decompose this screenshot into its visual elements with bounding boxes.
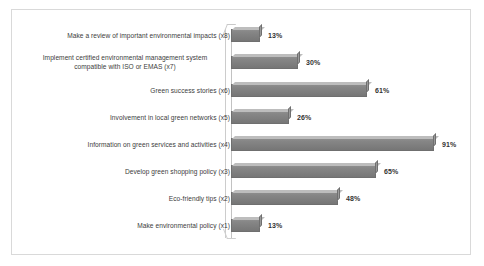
bar-track: 26% [231,104,311,130]
bar-row: Information on green services and activi… [12,131,470,157]
bar-value-label: 13% [268,32,282,39]
bar-chart-plot-area: Make a review of important environmental… [12,10,470,254]
bar-row: Implement certified environmental manage… [12,49,470,75]
bar-track: 65% [231,158,398,184]
bar-value-label: 61% [375,87,389,94]
bar-value-label: 26% [297,114,311,121]
category-label: Eco-friendly tips (x2) [18,194,230,203]
bar[interactable] [231,111,289,124]
category-label: Develop green shopping policy (x3) [18,167,230,176]
category-label-line-2: compatible with ISO or EMAS (x7) [18,62,232,71]
bar-track: 91% [231,131,456,157]
category-label-line-1: Implement certified environmental manage… [18,53,232,62]
chart-frame: Make a review of important environmental… [11,9,471,255]
bar[interactable] [231,219,260,232]
bar-row: Develop green shopping policy (x3) 65% [12,158,470,184]
bar-track: 48% [231,185,360,211]
bar-row: Involvement in local green networks (x5)… [12,104,470,130]
bar-row: Green success stories (x6) 61% [12,77,470,103]
bar-track: 61% [231,77,389,103]
category-label: Involvement in local green networks (x5) [18,113,230,122]
bar-value-label: 48% [346,195,360,202]
category-label: Green success stories (x6) [18,86,230,95]
bar-row: Eco-friendly tips (x2) 48% [12,185,470,211]
bar-track: 13% [231,212,282,238]
category-label: Information on green services and activi… [18,140,230,149]
bar-track: 30% [231,49,320,75]
bar[interactable] [231,192,338,205]
category-label: Make environmental policy (x1) [18,221,230,230]
bar[interactable] [231,56,298,69]
bar-value-label: 13% [268,222,282,229]
bar[interactable] [231,138,434,151]
bar-value-label: 91% [442,141,456,148]
bar[interactable] [231,84,367,97]
bar-track: 13% [231,22,282,48]
bar-value-label: 65% [384,168,398,175]
bar[interactable] [231,29,260,42]
bar-value-label: 30% [306,59,320,66]
bar-row: Make environmental policy (x1) 13% [12,212,470,238]
bar[interactable] [231,165,376,178]
bar-row: Make a review of important environmental… [12,22,470,48]
category-label: Make a review of important environmental… [18,31,230,40]
category-label: Implement certified environmental manage… [18,53,232,71]
